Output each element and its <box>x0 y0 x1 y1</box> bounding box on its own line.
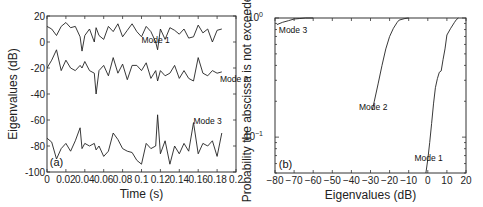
x-tick-label: −20 <box>381 175 398 186</box>
figure: 00.020.040.060.080.10.120.140.160.180.2-… <box>0 0 483 207</box>
x-tick-label: 0.14 <box>170 174 190 185</box>
y-axis-label: Probability the abscissa is not exceeded <box>240 0 254 202</box>
panel-tag: (a) <box>50 156 63 168</box>
x-tick-label: −10 <box>400 175 417 186</box>
mode-annotation: Mode 1 <box>142 35 171 45</box>
x-tick-label: 0.02 <box>56 174 76 185</box>
x-tick-label: −60 <box>305 175 322 186</box>
y-tick-label: -40 <box>31 89 46 100</box>
x-tick-label: 0.18 <box>207 174 227 185</box>
y-tick-label: -60 <box>31 115 46 126</box>
series-mode-3 <box>277 18 313 25</box>
x-axis-label: Eigenvalues (dB) <box>325 188 416 202</box>
x-tick-label: 10 <box>441 175 453 186</box>
panel-a-eigenvalues-vs-time: 00.020.040.060.080.10.120.140.160.180.2-… <box>6 11 249 202</box>
x-axis-label: Time (s) <box>120 187 164 201</box>
x-tick-label: 0.16 <box>188 174 208 185</box>
series-mode-2 <box>47 50 222 94</box>
y-tick-label: 0 <box>39 37 45 48</box>
y-tick-label: -80 <box>31 141 46 152</box>
series-mode-2 <box>372 18 408 110</box>
x-tick-label: −70 <box>286 175 303 186</box>
x-tick-label: −30 <box>362 175 379 186</box>
series-mode-1 <box>47 23 222 52</box>
x-tick-label: −50 <box>324 175 341 186</box>
mode-annotation: Mode 3 <box>193 116 222 126</box>
x-tick-label: 0.06 <box>94 174 114 185</box>
mode-annotation: Mode 3 <box>279 25 308 35</box>
y-tick-label: 20 <box>34 11 46 22</box>
y-axis-label: Eigenvalues (dB) <box>6 48 20 139</box>
x-tick-label: 0.04 <box>75 174 95 185</box>
x-tick-label: 0.12 <box>151 174 171 185</box>
x-tick-label: 0.08 <box>113 174 133 185</box>
y-tick-label: -100 <box>25 167 45 178</box>
plot-frame <box>275 18 466 173</box>
y-tick-label: -20 <box>31 63 46 74</box>
x-tick-label: −40 <box>343 175 360 186</box>
panel-b-probability-distribution: −80−70−60−50−40−30−20−100102010−1100Eige… <box>240 0 472 202</box>
mode-annotation: Mode 2 <box>359 102 388 112</box>
x-tick-label: 0 <box>425 175 431 186</box>
mode-annotation: Mode 1 <box>414 153 443 163</box>
x-tick-label: 0 <box>44 174 50 185</box>
x-tick-label: 20 <box>460 175 472 186</box>
panel-tag: (b) <box>279 158 292 170</box>
x-tick-label: 0.1 <box>135 174 149 185</box>
x-tick-label: −80 <box>267 175 284 186</box>
series-mode-1 <box>426 18 459 173</box>
